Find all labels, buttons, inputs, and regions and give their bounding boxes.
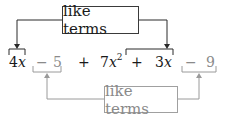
operator-minus-1: − [36, 55, 48, 69]
term-3x: 3x [155, 55, 172, 69]
term-9: 9 [206, 55, 215, 69]
operator-plus-1: + [78, 55, 90, 69]
bottom-like-terms-label: like terms [105, 82, 177, 118]
top-like-terms-label: like terms [63, 2, 138, 38]
operator-plus-2: + [131, 55, 143, 69]
term-5: 5 [53, 55, 62, 69]
term-4x: 4x [9, 55, 26, 69]
operator-minus-2: − [185, 55, 197, 69]
top-like-terms-box: like terms [62, 6, 139, 34]
bottom-like-terms-box: like terms [104, 86, 178, 113]
term-7x-squared: 7x2 [100, 55, 123, 69]
